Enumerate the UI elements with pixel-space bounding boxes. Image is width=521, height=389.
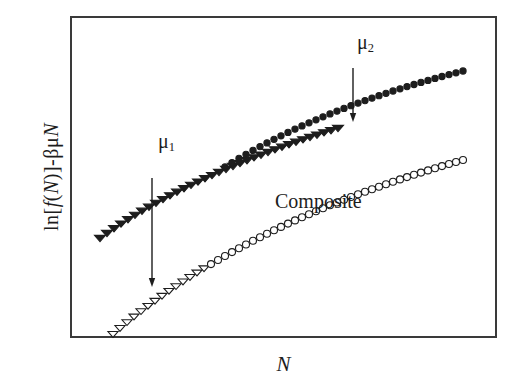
series-label-mu1-subscript: 1	[169, 140, 175, 154]
y-axis-label-minus: -	[40, 159, 63, 166]
y-axis-label-n: N	[40, 180, 63, 194]
figure-root: ln[f(N)] - βμN N μ1 μ2 Composite	[0, 0, 521, 389]
series-label-mu1: μ1	[158, 131, 175, 153]
series-label-mu2: μ2	[357, 32, 374, 54]
y-axis-label-paren-close: )	[40, 173, 63, 180]
y-axis-label-f: f	[40, 201, 63, 207]
plot-frame	[70, 16, 497, 338]
y-axis-label-ln: ln[	[40, 207, 63, 231]
series-label-mu2-glyph: μ	[357, 31, 368, 53]
series-label-mu1-glyph: μ	[158, 130, 169, 152]
x-axis-label: N	[70, 352, 497, 377]
series-label-composite: Composite	[275, 190, 362, 213]
y-axis-label: ln[f(N)] - βμN	[34, 16, 68, 338]
series-label-mu2-subscript: 2	[368, 41, 374, 55]
y-axis-label-paren-open: (	[40, 194, 63, 201]
y-axis-label-bracket-close: ]	[40, 166, 63, 173]
y-axis-label-beta-mu: βμ	[40, 137, 63, 159]
y-axis-label-n2: N	[40, 123, 63, 137]
